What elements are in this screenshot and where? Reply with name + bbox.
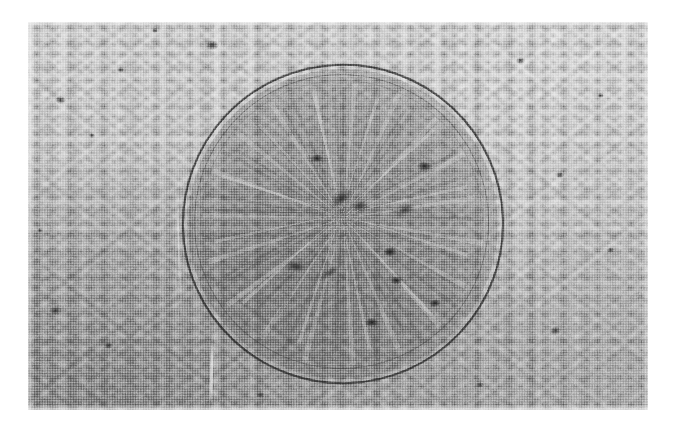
micrograph-plate [28, 22, 648, 410]
figure-page [0, 0, 673, 429]
figure-caption [28, 412, 648, 426]
fine-noise-layer [28, 22, 648, 410]
